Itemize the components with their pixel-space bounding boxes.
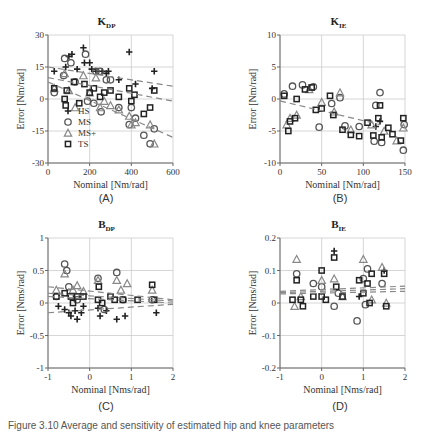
series-hs bbox=[331, 248, 387, 300]
y-axis-label: Error [Nms/rad] bbox=[247, 271, 258, 336]
triangle-marker bbox=[291, 303, 298, 310]
data-points bbox=[290, 248, 390, 324]
y-tick-label: -0.1 bbox=[262, 331, 276, 341]
square-marker bbox=[300, 304, 305, 309]
plus-marker bbox=[331, 248, 337, 254]
triangle-marker bbox=[330, 275, 337, 282]
chart-panel-d: -1012-0.2-0.100.10.2BIENominal [Nms/rad]… bbox=[0, 0, 213, 200]
y-tick-label: 0 bbox=[272, 298, 277, 308]
square-marker bbox=[290, 297, 295, 302]
series-ms-plus bbox=[291, 255, 390, 309]
x-tick-label: -1 bbox=[276, 372, 284, 382]
square-marker bbox=[369, 271, 374, 276]
y-tick-label: 0.2 bbox=[265, 233, 276, 243]
x-tick-label: 0 bbox=[319, 372, 324, 382]
figure-caption: Figure 3.10 Average and sensitivity of e… bbox=[8, 420, 334, 431]
triangle-marker bbox=[293, 255, 300, 262]
square-marker bbox=[294, 278, 299, 283]
circle-marker bbox=[354, 318, 360, 324]
square-marker bbox=[365, 281, 370, 286]
square-marker bbox=[332, 255, 337, 260]
x-tick-label: 1 bbox=[361, 372, 366, 382]
circle-marker bbox=[331, 303, 337, 309]
x-tick-label: 2 bbox=[403, 372, 408, 382]
circle-marker bbox=[310, 280, 316, 286]
square-marker bbox=[311, 294, 316, 299]
chart-title: BIE bbox=[331, 218, 346, 233]
chart-svg-d: -1012-0.2-0.100.10.2BIENominal [Nms/rad]… bbox=[0, 0, 427, 432]
y-tick-label: -0.2 bbox=[262, 363, 276, 373]
y-tick-label: 0.1 bbox=[265, 266, 276, 276]
panel-label-d: (D) bbox=[320, 400, 360, 412]
triangle-marker bbox=[378, 264, 385, 271]
circle-marker bbox=[379, 280, 385, 286]
circle-marker bbox=[293, 271, 299, 277]
chart-title-subscript: IE bbox=[338, 225, 346, 233]
x-axis-label: Nominal [Nms/rad] bbox=[303, 384, 382, 395]
